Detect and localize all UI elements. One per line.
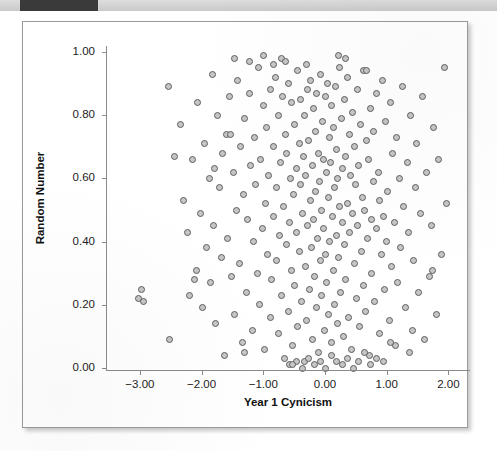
x-tick-label: −1.00: [241, 378, 285, 390]
data-point: [249, 327, 256, 334]
data-point: [312, 128, 319, 135]
data-point: [361, 207, 368, 214]
data-point: [275, 330, 282, 337]
data-point: [273, 257, 280, 264]
data-point: [405, 229, 412, 236]
data-point: [228, 273, 235, 280]
data-point: [412, 184, 419, 191]
data-point: [296, 248, 303, 255]
data-point: [315, 349, 322, 356]
data-point: [360, 282, 367, 289]
data-point: [303, 317, 310, 324]
data-point: [265, 172, 272, 179]
y-axis-line: [106, 46, 107, 371]
data-point: [211, 165, 218, 172]
data-point: [389, 150, 396, 157]
data-point: [354, 86, 361, 93]
data-point: [243, 289, 250, 296]
data-point: [336, 203, 343, 210]
data-point: [391, 219, 398, 226]
data-point: [373, 90, 380, 97]
data-point: [326, 134, 333, 141]
data-point: [294, 67, 301, 74]
data-point: [261, 346, 268, 353]
data-point: [259, 225, 266, 232]
data-point: [241, 349, 248, 356]
data-point: [273, 184, 280, 191]
data-point: [382, 118, 389, 125]
data-point: [298, 298, 305, 305]
data-point: [246, 90, 253, 97]
data-point: [294, 323, 301, 330]
data-point: [363, 137, 370, 144]
data-point: [276, 232, 283, 239]
data-point: [304, 222, 311, 229]
data-point: [396, 175, 403, 182]
data-point: [430, 124, 437, 131]
data-point: [311, 273, 318, 280]
data-point: [219, 150, 226, 157]
data-point: [370, 128, 377, 135]
data-point: [186, 292, 193, 299]
x-tick-mark: [387, 371, 388, 375]
data-point: [288, 267, 295, 274]
data-point: [309, 336, 316, 343]
x-tick-mark: [448, 371, 449, 375]
data-point: [252, 181, 259, 188]
data-point: [321, 327, 328, 334]
data-point: [272, 74, 279, 81]
data-point: [221, 352, 228, 359]
data-point: [224, 235, 231, 242]
data-point: [257, 156, 264, 163]
y-axis-title: Random Number: [34, 98, 46, 298]
data-point: [260, 52, 267, 59]
data-point: [314, 235, 321, 242]
data-point: [435, 156, 442, 163]
data-point: [297, 96, 304, 103]
data-point: [312, 188, 319, 195]
data-point: [184, 229, 191, 236]
data-point: [323, 279, 330, 286]
x-tick-mark: [202, 371, 203, 375]
data-point: [307, 77, 314, 84]
data-point: [317, 257, 324, 264]
y-tick-label: 0.40: [49, 236, 95, 247]
data-point: [287, 175, 294, 182]
data-point: [313, 90, 320, 97]
data-point: [383, 238, 390, 245]
data-point: [334, 320, 341, 327]
data-point: [290, 191, 297, 198]
data-point: [317, 71, 324, 78]
data-point: [365, 156, 372, 163]
data-point: [138, 286, 145, 293]
data-point: [330, 124, 337, 131]
data-point: [322, 93, 329, 100]
data-point: [226, 93, 233, 100]
y-tick-mark: [102, 115, 106, 116]
y-tick-label: 0.20: [49, 299, 95, 310]
data-point: [355, 358, 362, 365]
data-point: [367, 105, 374, 112]
data-point: [376, 330, 383, 337]
data-point: [380, 213, 387, 220]
data-point: [342, 55, 349, 62]
data-point: [309, 162, 316, 169]
data-point: [428, 222, 435, 229]
y-tick-mark: [102, 305, 106, 306]
data-point: [433, 311, 440, 318]
data-point: [317, 358, 324, 365]
data-point: [356, 323, 363, 330]
data-point: [251, 134, 258, 141]
data-point: [364, 235, 371, 242]
data-point: [236, 260, 243, 267]
data-point: [402, 304, 409, 311]
data-point: [239, 339, 246, 346]
data-point: [231, 55, 238, 62]
figure-panel: 0.000.200.400.600.801.00 −3.00−2.00−1.00…: [22, 21, 468, 428]
data-point: [417, 210, 424, 217]
data-point: [378, 251, 385, 258]
data-point: [283, 241, 290, 248]
data-point: [291, 282, 298, 289]
data-point: [438, 251, 445, 258]
data-point: [345, 314, 352, 321]
